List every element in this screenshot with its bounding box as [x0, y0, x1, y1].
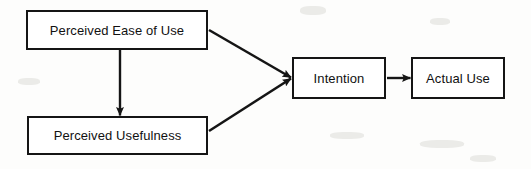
edge-pu-to-intention — [209, 79, 291, 132]
edge-peou-to-intention — [209, 30, 291, 78]
node-actual-use: Actual Use — [411, 57, 505, 99]
node-perceived-usefulness: Perceived Usefulness — [27, 116, 208, 155]
node-intention: Intention — [292, 57, 386, 99]
node-label-perceived-ease-of-use: Perceived Ease of Use — [50, 24, 184, 37]
node-label-perceived-usefulness: Perceived Usefulness — [54, 129, 182, 142]
diagram-canvas: Perceived Ease of Use Perceived Usefulne… — [0, 0, 531, 169]
node-perceived-ease-of-use: Perceived Ease of Use — [26, 10, 208, 50]
node-label-actual-use: Actual Use — [426, 72, 490, 85]
node-label-intention: Intention — [314, 72, 365, 85]
